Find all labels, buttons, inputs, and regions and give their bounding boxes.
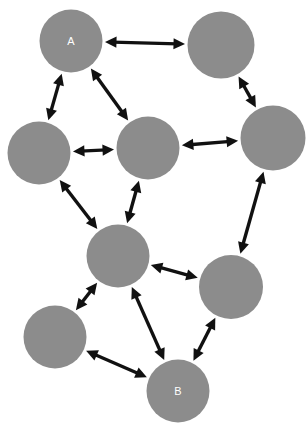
graph-edge [238, 172, 266, 254]
graph-node[interactable] [188, 12, 255, 79]
edge-arrowhead [125, 211, 136, 224]
graph-edge [239, 76, 256, 107]
edge-shaft [129, 188, 137, 216]
graph-edge [91, 69, 128, 121]
edge-arrowhead [102, 144, 114, 155]
edge-arrowhead [185, 269, 198, 280]
edge-arrowhead [53, 74, 64, 87]
graph-node[interactable]: A [40, 10, 103, 73]
graph-node-label: B [174, 385, 181, 397]
graph-edge [151, 263, 198, 281]
edge-arrowhead [46, 108, 57, 121]
graph-edge [131, 287, 164, 360]
graph-node[interactable] [8, 122, 71, 185]
graph-node[interactable] [117, 117, 180, 180]
graph-node[interactable] [241, 106, 306, 171]
edge-shaft [93, 354, 140, 375]
edge-shaft [158, 267, 190, 276]
graph-node-label: A [67, 35, 75, 47]
graph-node[interactable] [87, 225, 150, 288]
graph-edge [60, 180, 98, 229]
graph-node-circle[interactable] [24, 306, 87, 369]
graph-node[interactable]: B [147, 360, 210, 423]
edge-arrowhead [151, 263, 164, 274]
edge-arrowhead [182, 139, 194, 150]
edge-shaft [112, 42, 177, 44]
graph-edge [76, 283, 97, 310]
edge-shaft [64, 186, 92, 223]
graph-node[interactable] [199, 255, 263, 319]
graph-node-circle[interactable] [199, 255, 263, 319]
edge-arrowhead [130, 181, 141, 194]
graph-edge [182, 136, 238, 150]
edge-shaft [95, 75, 124, 115]
graph-edge [105, 37, 185, 50]
graph-node-circle[interactable] [87, 225, 150, 288]
edge-shaft [197, 324, 212, 354]
edge-shaft [242, 179, 261, 247]
edge-arrowhead [73, 145, 85, 156]
edge-arrowhead [238, 241, 249, 254]
edge-arrowhead [105, 37, 117, 48]
graph-edge [46, 74, 64, 121]
edge-arrowhead [226, 136, 238, 147]
graph-node-circle[interactable] [188, 12, 255, 79]
edge-shaft [189, 141, 230, 144]
nodes-layer: AB [8, 10, 306, 423]
edge-arrowhead [173, 38, 185, 49]
graph-edge [193, 318, 215, 361]
graph-node[interactable] [24, 306, 87, 369]
graph-edge [125, 181, 141, 223]
network-graph-figure: AB [0, 0, 307, 424]
edge-shaft [135, 294, 161, 353]
graph-node-circle[interactable] [117, 117, 180, 180]
graph-node-circle[interactable] [241, 106, 306, 171]
edge-arrowhead [255, 172, 266, 185]
graph-edge [73, 144, 114, 156]
edge-shaft [50, 81, 59, 113]
graph-canvas: AB [0, 0, 307, 424]
graph-edge [86, 350, 147, 378]
graph-node-circle[interactable] [8, 122, 71, 185]
